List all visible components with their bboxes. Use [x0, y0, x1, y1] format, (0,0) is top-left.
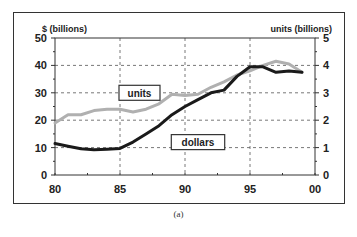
series-label-units: units — [128, 88, 152, 99]
right-y-tick-label: 5 — [323, 32, 329, 44]
x-tick-label: 80 — [49, 183, 61, 195]
line-chart: $ (billions) units (billions) 0102030405… — [0, 0, 357, 237]
right-y-tick-label: 2 — [323, 114, 329, 126]
x-tick-label: 85 — [114, 183, 126, 195]
figure-caption: (a) — [0, 209, 357, 219]
right-y-tick-label: 1 — [323, 142, 329, 154]
x-tick-label: 95 — [244, 183, 256, 195]
right-y-tick-label: 0 — [323, 169, 329, 181]
left-y-tick-label: 40 — [35, 59, 47, 71]
left-y-tick-label: 30 — [35, 87, 47, 99]
left-axis-title: $ (billions) — [42, 24, 87, 34]
series-line-units — [55, 61, 302, 123]
x-tick-label: 00 — [309, 183, 321, 195]
left-y-tick-label: 20 — [35, 114, 47, 126]
right-y-tick-label: 4 — [323, 59, 330, 71]
right-y-tick-label: 3 — [323, 87, 329, 99]
left-y-tick-label: 0 — [41, 169, 47, 181]
x-tick-label: 90 — [179, 183, 191, 195]
series-label-dollars: dollars — [182, 137, 215, 148]
left-y-tick-label: 10 — [35, 142, 47, 154]
left-y-tick-label: 50 — [35, 32, 47, 44]
